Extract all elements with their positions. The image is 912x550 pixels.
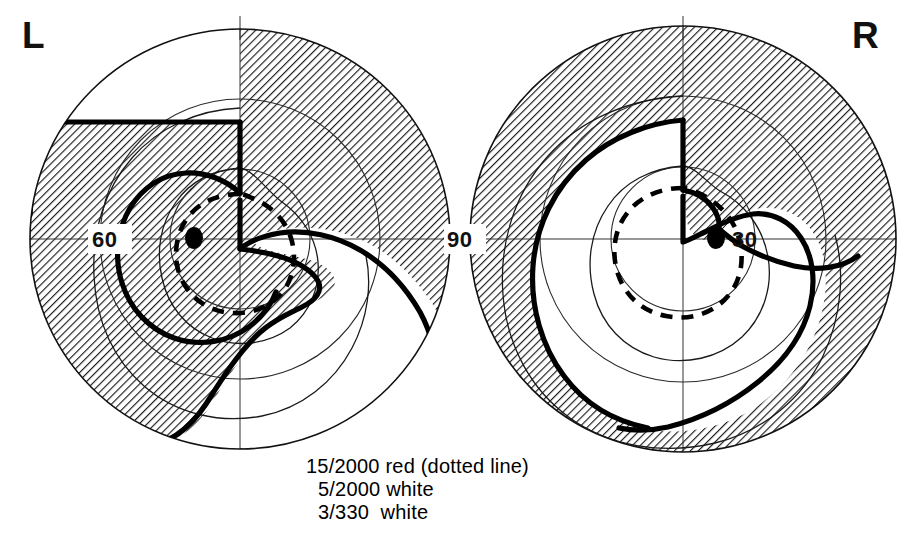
legend: 15/2000 red (dotted line) 5/2000 white 3… (306, 455, 529, 524)
right-eye-label: R (852, 15, 879, 56)
left-blind-spot (185, 227, 203, 249)
left-meridian-label-60: 60 (92, 227, 117, 252)
legend-item-5-2000-white: 5/2000 white (306, 478, 529, 501)
legend-item-15-2000-red: 15/2000 red (dotted line) (306, 455, 529, 478)
left-eye-label: L (22, 15, 45, 56)
right-eye-chart: R 90 30 (444, 15, 906, 460)
legend-item-3-330-white: 3/330 white (306, 501, 529, 524)
right-blind-spot (707, 227, 725, 249)
right-meridian-label-30: 30 (732, 227, 757, 252)
right-meridian-label-90: 90 (447, 227, 472, 252)
perimetry-figure: L 60 (0, 0, 912, 550)
left-eye-chart: L 60 (20, 15, 460, 460)
